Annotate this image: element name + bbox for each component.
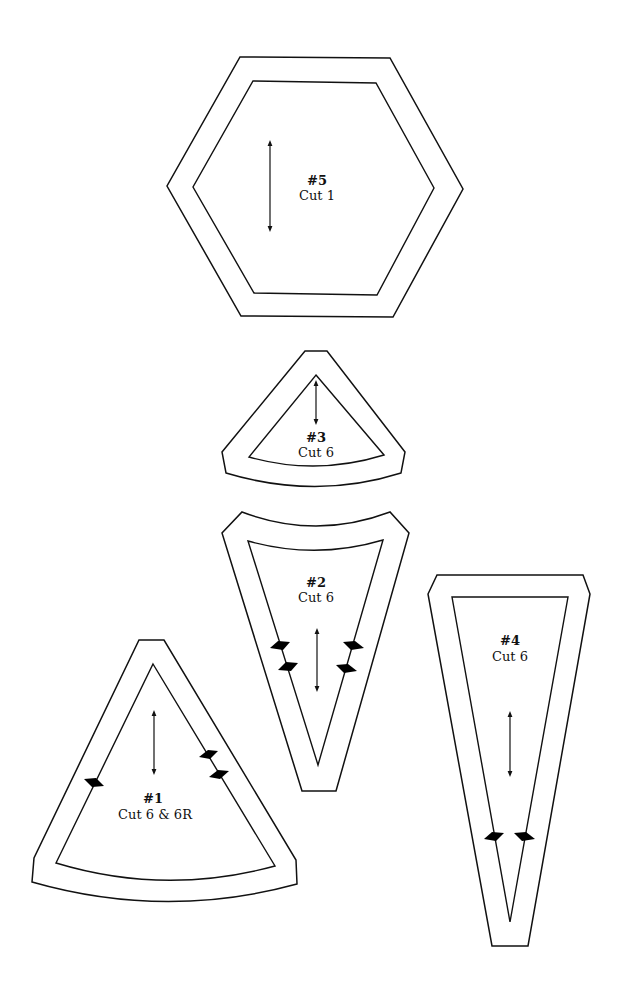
piece-1-notch-right-1 <box>199 750 218 759</box>
piece-2-cut-instruction: Cut 6 <box>298 590 334 605</box>
piece-4-cutting-line <box>428 575 590 946</box>
piece-3-triangle: #3 Cut 6 <box>222 351 405 487</box>
piece-5-hexagon: #5 Cut 1 <box>167 57 463 317</box>
piece-2-notch-right-2 <box>336 664 357 673</box>
piece-2-sewing-line <box>248 540 383 765</box>
piece-1-cut-instruction: Cut 6 & 6R <box>118 807 193 822</box>
piece-4-number: #4 <box>500 633 520 648</box>
piece-1-number: #1 <box>143 791 163 806</box>
piece-4-notch-right <box>514 832 535 841</box>
piece-2-cutting-line <box>222 512 409 791</box>
piece-1-cutting-line <box>32 640 297 902</box>
piece-1-notch-left <box>84 778 104 787</box>
piece-2-triangle: #2 Cut 6 <box>222 512 409 791</box>
pattern-sheet: #5 Cut 1 #3 Cut 6 #2 Cut 6 #4 Cut 6 <box>0 0 622 991</box>
piece-3-number: #3 <box>306 430 326 445</box>
piece-3-cut-instruction: Cut 6 <box>298 445 334 460</box>
piece-1-sewing-line <box>56 664 275 880</box>
piece-5-cut-instruction: Cut 1 <box>299 188 335 203</box>
piece-2-number: #2 <box>306 575 326 590</box>
piece-2-notch-left-1 <box>270 641 290 650</box>
piece-1-notch-right-2 <box>209 770 229 779</box>
piece-5-number: #5 <box>307 173 327 188</box>
piece-4-triangle: #4 Cut 6 <box>428 575 590 946</box>
piece-2-notch-left-2 <box>278 662 298 671</box>
piece-4-notch-left <box>484 832 504 841</box>
piece-2-notch-right-1 <box>343 641 364 650</box>
piece-1-triangle: #1 Cut 6 & 6R <box>32 640 297 902</box>
piece-4-cut-instruction: Cut 6 <box>492 649 528 664</box>
